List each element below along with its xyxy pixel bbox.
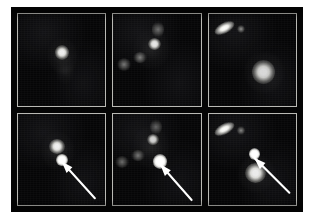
sky-background (209, 114, 296, 206)
figure-plate (11, 7, 303, 212)
image-panel-bottom-right (208, 113, 297, 207)
sky-background (113, 14, 200, 106)
figure-root (0, 0, 319, 224)
panel-grid (17, 13, 297, 206)
sky-background (18, 14, 105, 106)
image-panel-bottom-left (17, 113, 106, 207)
sky-background (209, 14, 296, 106)
image-panel-top-right (208, 13, 297, 107)
image-panel-top-left (17, 13, 106, 107)
sky-background (113, 114, 200, 206)
sky-background (18, 114, 105, 206)
image-panel-top-middle (112, 13, 201, 107)
image-panel-bottom-middle (112, 113, 201, 207)
